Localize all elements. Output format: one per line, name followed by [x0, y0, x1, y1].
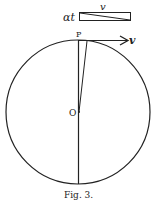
figure-diagram: αt v v P O Fig. 3.	[0, 0, 155, 204]
figure-caption: Fig. 3.	[64, 190, 93, 200]
slanted-radius	[79, 41, 87, 112]
alpha-t-label: αt	[63, 11, 75, 24]
bar-v-label: v	[100, 1, 106, 12]
arrow-v-label: v	[129, 34, 136, 47]
velocity-bar	[80, 13, 131, 21]
point-p-label: P	[76, 30, 82, 39]
center-o-label: O	[69, 108, 76, 118]
velocity-arrow	[78, 36, 128, 45]
center-point	[78, 111, 80, 113]
